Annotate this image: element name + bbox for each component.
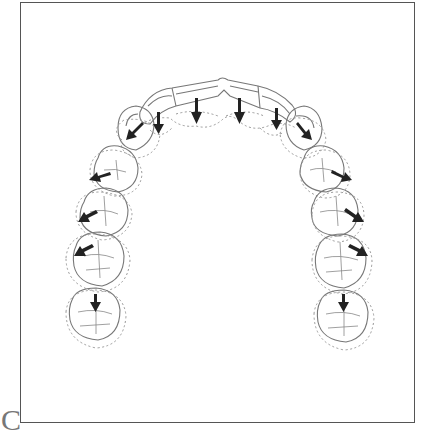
arrow-icon [89, 172, 111, 182]
arrow-icon [78, 210, 98, 222]
arrow-icon [74, 244, 94, 256]
arrow-icon [344, 208, 364, 222]
dental-arch-diagram [0, 0, 421, 437]
arrow-icon [331, 170, 352, 182]
arrow-icon [90, 294, 101, 312]
incisors-dashed [138, 111, 296, 135]
arrow-icon [153, 112, 164, 134]
panel-label: C [1, 405, 21, 435]
arrow-icon [348, 244, 368, 256]
incisors [140, 78, 296, 124]
right-side-teeth [66, 106, 160, 348]
arrow-icon [338, 294, 349, 312]
arrow-icon [126, 122, 144, 140]
left-side-teeth [280, 106, 374, 350]
arrow-icon [296, 122, 312, 140]
